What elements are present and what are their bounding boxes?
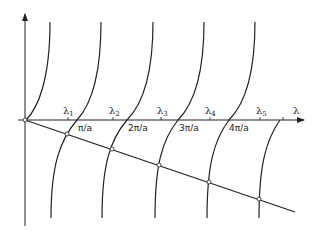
tick-pi-over-a: π/a [78, 123, 92, 133]
root-point-5 [257, 197, 261, 201]
root-label-1: λ1 [63, 105, 74, 118]
root-label-3: λ3 [157, 105, 168, 118]
root-point-4 [207, 180, 211, 184]
root-point-0 [23, 118, 27, 122]
branch-2-lower [102, 120, 127, 218]
branch-0-upper [26, 22, 50, 120]
root-point-3 [157, 163, 161, 167]
tick-4pi-over-a: 4π/a [229, 123, 249, 133]
root-point-1 [65, 132, 69, 136]
branch-4-lower [207, 120, 229, 218]
root-label-2: λ2 [109, 105, 120, 118]
upper-branches [26, 22, 255, 120]
root-label-5: λ5 [256, 105, 267, 118]
tick-3pi-over-a: 3π/a [179, 123, 199, 133]
root-point-2 [110, 147, 114, 151]
branch-3-lower [155, 120, 178, 218]
branch-3-upper [178, 22, 204, 120]
branch-4-upper [229, 22, 255, 120]
branch-2-upper [127, 22, 153, 120]
x-axis-label: λ [293, 105, 300, 116]
lower-branches [51, 120, 280, 218]
branch-1-lower [51, 120, 77, 218]
root-label-4: λ4 [205, 105, 216, 118]
diagram-canvas: λ1 λ2 λ3 λ4 λ5 λ π/a 2π/a 3π/a 4π/a [0, 0, 315, 236]
tick-2pi-over-a: 2π/a [128, 123, 148, 133]
branch-1-upper [77, 22, 101, 120]
